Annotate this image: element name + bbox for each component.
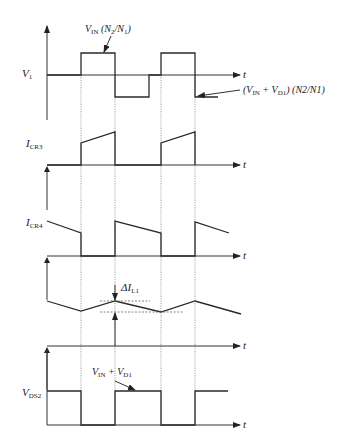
waveform-diagram: t V1 VIN (N2/N1) (VIN + VD1) (N2/N1) t I… — [0, 0, 344, 447]
t-label: t — [243, 68, 247, 80]
panel-v1: t V1 VIN (N2/N1) (VIN + VD1) (N2/N1) — [22, 23, 326, 120]
panel-vds2: t VDS2 VIN + VD1 — [22, 349, 247, 430]
label-vds2: VDS2 — [22, 386, 42, 400]
annotation-vin-n2-n1: VIN (N2/N1) — [85, 23, 131, 36]
label-v1: V1 — [22, 67, 33, 81]
label-icr4: ICR4 — [25, 216, 43, 230]
waveform-icr3 — [47, 132, 195, 165]
waveform-vds2 — [47, 391, 228, 425]
t-label: t — [243, 339, 247, 351]
label-icr3: ICR3 — [25, 137, 43, 151]
panel-il1: t ΔIL1 — [44, 281, 247, 390]
annotation-vin-plus-vd1: VIN + VD1 — [92, 366, 132, 379]
label-delta-il1: ΔIL1 — [120, 281, 139, 295]
pointer-arrow-low — [198, 90, 240, 96]
panel-icr3: t ICR3 — [25, 132, 247, 210]
annotation-vin-vd1-n2-n1: (VIN + VD1) (N2/N1) — [243, 84, 326, 97]
t-label: t — [243, 158, 247, 170]
pointer-arrow-high — [104, 36, 111, 52]
t-label: t — [243, 418, 247, 430]
pointer-arrow-vds2 — [115, 381, 135, 390]
t-label: t — [243, 249, 247, 261]
waveform-icr4 — [47, 221, 229, 256]
